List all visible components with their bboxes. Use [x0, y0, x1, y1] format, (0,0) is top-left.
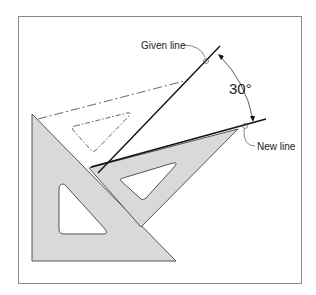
new-line-label: New line [257, 141, 296, 152]
given-line-label: Given line [141, 40, 186, 51]
angle-label: 30° [229, 80, 252, 97]
diagram-canvas: Given line 30° New line [0, 0, 316, 295]
